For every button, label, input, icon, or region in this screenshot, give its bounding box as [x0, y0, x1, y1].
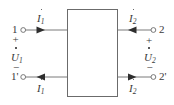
output-top-current-label: I2 — [129, 13, 137, 25]
terminal-2prime-node — [151, 75, 156, 80]
input-plus-sign: + — [13, 34, 19, 45]
terminal-1-node — [21, 28, 26, 33]
terminal-label-2prime: 2' — [159, 71, 166, 82]
input-voltage-subscript: 1 — [19, 56, 23, 65]
input-bottom-current-subscript: 1 — [41, 87, 45, 96]
two-port-network-figure: 1 + U1 − 1' I1 I1 2 + U2 − 2' I2 I2 — [0, 0, 174, 105]
output-top-current-subscript: 2 — [133, 17, 137, 26]
output-bottom-current-label: I2 — [129, 83, 137, 95]
input-voltage-phasor-dot — [15, 47, 17, 49]
terminal-1prime-node — [21, 75, 26, 80]
current-arrow-output-top — [128, 27, 137, 34]
terminal-label-2: 2 — [159, 24, 165, 35]
input-bottom-current-label: I1 — [37, 83, 45, 95]
input-top-current-label: I1 — [37, 13, 45, 25]
terminal-2-node — [151, 28, 156, 33]
two-port-block — [68, 10, 118, 97]
current-arrow-input-top — [37, 27, 46, 34]
terminal-label-1prime: 1' — [11, 71, 18, 82]
output-voltage-phasor-dot — [148, 47, 150, 49]
output-bottom-current-subscript: 2 — [133, 87, 137, 96]
output-plus-sign: + — [146, 35, 152, 46]
output-minus-sign: − — [147, 62, 153, 73]
input-top-current-subscript: 1 — [41, 17, 45, 26]
